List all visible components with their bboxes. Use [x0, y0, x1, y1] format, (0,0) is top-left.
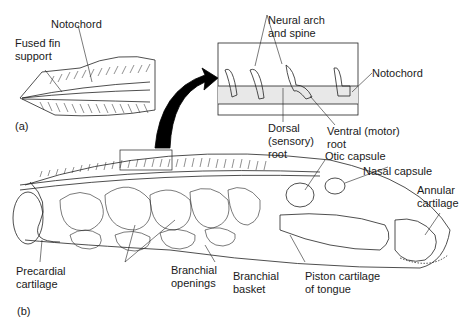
- label-neural-arch: Neural arch and spine: [268, 14, 325, 40]
- label-fused-fin-support: Fused fin support: [15, 37, 60, 63]
- label-piston-cartilage: Piston cartilage of tongue: [305, 270, 380, 296]
- label-dorsal-root: Dorsal (sensory) root: [268, 122, 314, 161]
- label-branchial-basket: Branchial basket: [233, 270, 279, 296]
- label-otic-capsule: Otic capsule: [325, 150, 386, 163]
- label-branchial-openings: Branchial openings: [171, 264, 217, 290]
- panel-label-a: (a): [15, 120, 28, 132]
- label-precardial-cartilage: Precardial cartilage: [16, 265, 66, 291]
- zoom-arrow: [155, 68, 218, 148]
- label-ventral-root: Ventral (motor) root: [327, 125, 400, 151]
- panel-label-b: (b): [17, 305, 30, 317]
- label-notochord-inset: Notochord: [372, 67, 423, 80]
- label-annular-cartilage: Annular cartilage: [417, 184, 459, 210]
- label-nasal-capsule: Nasal capsule: [363, 165, 432, 178]
- label-notochord-a: Notochord: [51, 18, 102, 31]
